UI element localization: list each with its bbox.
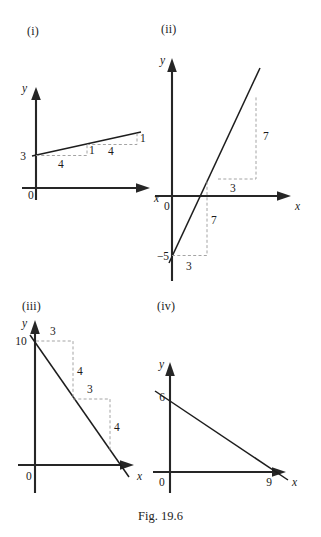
y-axis-name-iv: y bbox=[158, 358, 165, 371]
origin-label-iv: 0 bbox=[159, 476, 165, 488]
y-intercept-label-ii: −5 bbox=[157, 250, 169, 262]
step-run-label-ii-upper: 3 bbox=[230, 182, 236, 194]
x-axis-name-iv: x bbox=[291, 476, 298, 488]
step-run-label-i-1: 4 bbox=[58, 158, 64, 170]
panel-label-i: (i) bbox=[27, 24, 39, 39]
step-run-label-ii-lower: 3 bbox=[186, 260, 192, 272]
x-axis-arrowhead-ii bbox=[277, 191, 291, 201]
step-rise-label-i-2: 1 bbox=[140, 132, 146, 144]
figure-caption: Fig. 19.6 bbox=[0, 509, 321, 524]
origin-label-i: 0 bbox=[28, 189, 34, 201]
y-axis-name-i: y bbox=[21, 82, 28, 95]
panel-label-iv: (iv) bbox=[157, 299, 175, 314]
y-axis-name-iii: y bbox=[21, 317, 28, 330]
step-rise-label-iii-1: 4 bbox=[77, 365, 83, 377]
y-axis-arrowhead-iv bbox=[165, 362, 175, 376]
x-axis-name-iii: x bbox=[136, 470, 143, 482]
origin-label-iii: 0 bbox=[26, 470, 32, 482]
y-axis-arrowhead-i bbox=[31, 87, 41, 100]
x-axis-name-ii: x bbox=[294, 200, 301, 212]
step-run-label-iii-2: 3 bbox=[87, 383, 93, 395]
graph-panel-i: 3 0 y x 4 1 4 1 bbox=[0, 80, 165, 205]
y-intercept-label-iv: 6 bbox=[159, 391, 165, 403]
y-axis-arrowhead-ii bbox=[167, 58, 177, 72]
panel-label-iii: (iii) bbox=[22, 299, 41, 314]
step-rise-label-ii-lower: 7 bbox=[211, 214, 217, 226]
y-axis-name-ii: y bbox=[159, 54, 166, 67]
step-dash-iii-2 bbox=[73, 399, 110, 452]
step-dash-ii-upper bbox=[218, 96, 256, 179]
y-intercept-label-i: 3 bbox=[20, 150, 26, 162]
step-rise-label-ii-upper: 7 bbox=[263, 130, 269, 142]
step-rise-label-i-1: 1 bbox=[89, 144, 95, 156]
plotted-line-iv bbox=[155, 391, 288, 480]
panel-label-ii: (ii) bbox=[161, 22, 176, 37]
x-intercept-label-iv: 9 bbox=[266, 476, 272, 488]
plotted-line-iii bbox=[30, 335, 129, 477]
figure-19-6: (i) 3 0 y x 4 1 4 1 (ii) bbox=[0, 0, 321, 537]
y-intercept-label-iii: 10 bbox=[15, 335, 27, 347]
step-rise-label-iii-2: 4 bbox=[114, 421, 120, 433]
graph-panel-ii: −5 0 y x 3 7 3 7 bbox=[150, 48, 321, 283]
plotted-line-ii bbox=[169, 68, 260, 263]
x-axis-arrowhead-iv bbox=[272, 467, 286, 477]
step-run-label-iii-1: 3 bbox=[50, 325, 56, 337]
step-run-label-i-2: 4 bbox=[108, 145, 114, 157]
plotted-line-i bbox=[32, 132, 141, 156]
x-axis-arrowhead-i bbox=[136, 183, 150, 193]
graph-panel-iii: 10 0 y x 3 4 3 4 bbox=[0, 315, 160, 495]
y-axis-arrowhead-iii bbox=[30, 320, 40, 334]
graph-panel-iv: 6 0 9 y x bbox=[150, 355, 321, 495]
origin-label-ii: 0 bbox=[164, 200, 170, 212]
